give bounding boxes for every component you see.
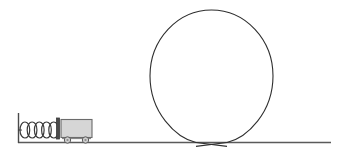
cart-wheel-rear-hub	[84, 139, 86, 141]
cart-wheel-front-hub	[66, 139, 68, 141]
physics-diagram	[0, 0, 341, 157]
spring-end-plate	[57, 118, 60, 139]
vertical-loop-path	[150, 10, 273, 143]
diagram-canvas	[0, 0, 341, 157]
spring-coils	[19, 122, 59, 138]
cart-body	[61, 120, 92, 138]
